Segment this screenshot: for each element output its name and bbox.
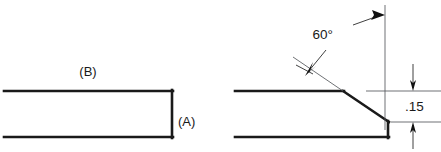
engineering-drawing: (B) (A)	[0, 0, 441, 152]
chamfer-extension-line	[293, 57, 343, 91]
right-view-chamfered-bar	[235, 91, 389, 138]
angle-dimension-text: 60°	[313, 27, 333, 42]
label-a: (A)	[178, 114, 195, 129]
label-b: (B)	[79, 64, 96, 79]
left-view-square-end-bar	[4, 90, 173, 138]
technical-drawing-canvas: (B) (A)	[0, 0, 441, 152]
height-dimension-text: .15	[405, 99, 424, 114]
angle-upper-arrowhead	[371, 10, 385, 20]
chamfer-face	[343, 91, 389, 122]
